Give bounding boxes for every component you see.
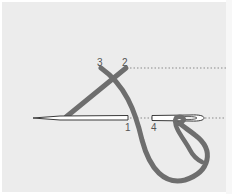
point-label-3: 3 [97,57,103,68]
point-label-1: 1 [125,122,131,133]
point-label-4: 4 [151,122,157,133]
stitch-diagram: 3 2 1 4 [0,0,232,194]
point-label-2: 2 [122,57,128,68]
needle-shaft-left [33,116,128,121]
stitch-diagonal [66,68,126,117]
